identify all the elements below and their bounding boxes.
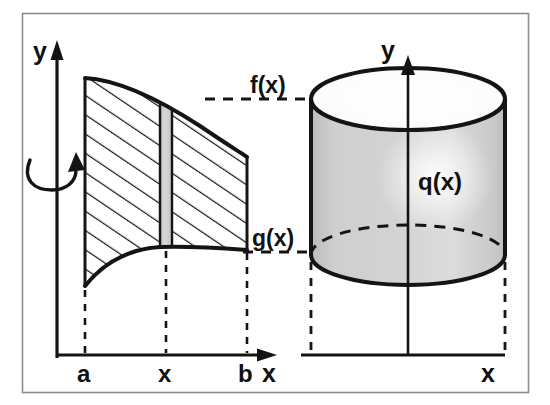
y-axis-label-right: y bbox=[381, 36, 395, 64]
lower-curve-label: g(x) bbox=[252, 225, 294, 251]
tick-label-b: b bbox=[238, 360, 253, 387]
tick-label-a: a bbox=[77, 360, 91, 387]
y-axis-label-left: y bbox=[33, 37, 47, 65]
tick-label-x: x bbox=[158, 360, 172, 387]
solid-label: q(x) bbox=[418, 168, 462, 195]
x-axis-label-left: x bbox=[262, 359, 276, 387]
upper-curve-label: f(x) bbox=[250, 72, 286, 98]
x-axis-label-right: x bbox=[481, 359, 495, 387]
shell-method-diagram: y x a x b f(x) g(x) bbox=[0, 0, 550, 405]
figure-canvas: y x a x b f(x) g(x) bbox=[0, 0, 550, 405]
